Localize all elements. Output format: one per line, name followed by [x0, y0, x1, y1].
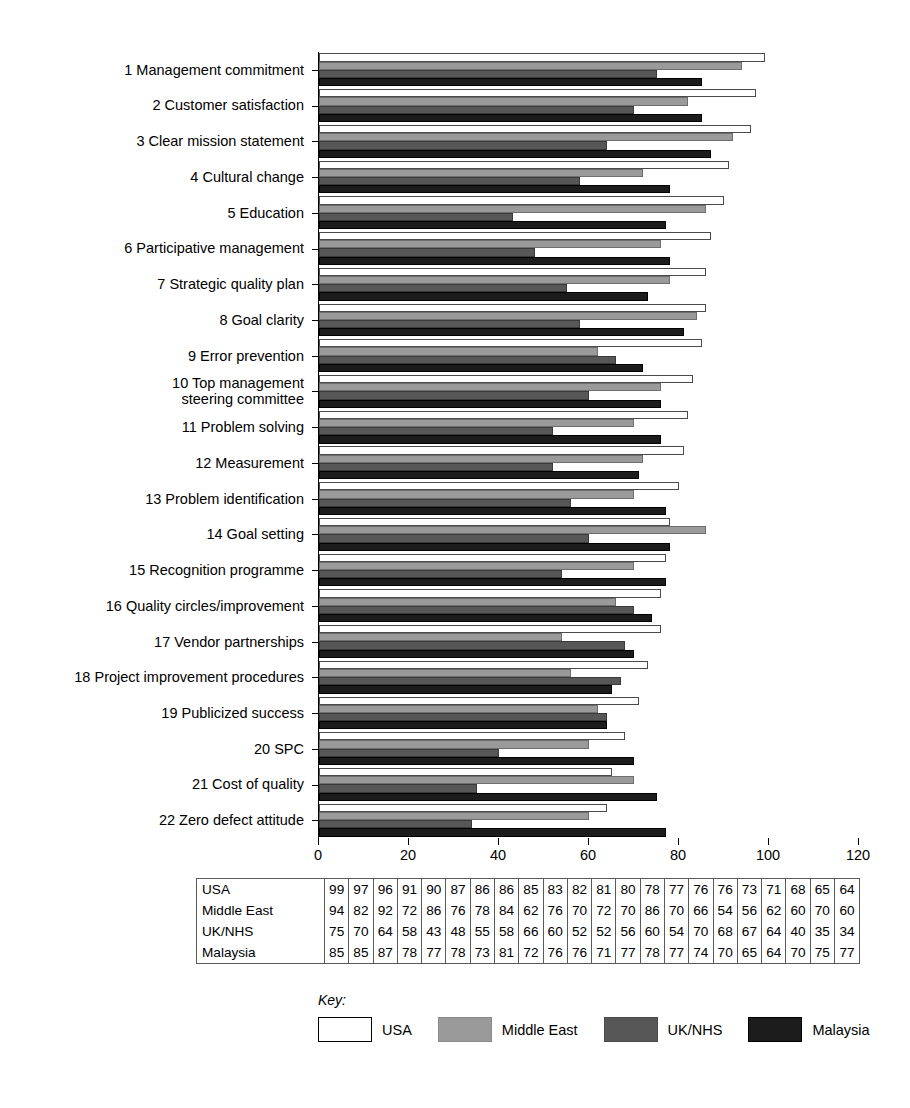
table-cell: 78	[640, 879, 664, 900]
x-axis-tick-label: 100	[756, 847, 780, 863]
bar-usa	[319, 268, 706, 276]
table-cell: 81	[494, 942, 518, 963]
table-cell: 66	[519, 921, 543, 942]
category-label: 1 Management commitment	[0, 52, 312, 88]
category-label: 9 Error prevention	[0, 338, 312, 374]
bar-group	[319, 409, 859, 445]
bar-usa	[319, 161, 729, 169]
table-cell: 75	[810, 942, 834, 963]
bar-middleeast	[319, 240, 661, 248]
bar-usa	[319, 697, 639, 705]
category-label: 17 Vendor partnerships	[0, 624, 312, 660]
category-label: 16 Quality circles/improvement	[0, 588, 312, 624]
bar-uknhs	[319, 320, 580, 328]
bar-uknhs	[319, 820, 472, 828]
table-cell: 85	[349, 942, 373, 963]
table-cell: 78	[397, 942, 421, 963]
table-cell: 76	[446, 900, 470, 921]
table-cell: 58	[397, 921, 421, 942]
x-axis-tick-label: 40	[490, 847, 506, 863]
bar-usa	[319, 518, 670, 526]
table-cell: 76	[567, 942, 591, 963]
bar-uknhs	[319, 284, 567, 292]
x-axis-tick	[588, 838, 589, 845]
bar-group	[319, 123, 859, 159]
bar-malaysia	[319, 435, 661, 443]
table-row-label: UK/NHS	[197, 921, 325, 942]
bar-malaysia	[319, 650, 634, 658]
table-cell: 71	[762, 879, 786, 900]
bar-group	[319, 767, 859, 803]
table-cell: 74	[689, 942, 713, 963]
table-cell: 85	[325, 942, 349, 963]
category-label: 21 Cost of quality	[0, 767, 312, 803]
bar-middleeast	[319, 419, 634, 427]
table-cell: 92	[373, 900, 397, 921]
bar-middleeast	[319, 633, 562, 641]
bar-uknhs	[319, 606, 634, 614]
table-cell: 48	[446, 921, 470, 942]
table-cell: 60	[640, 921, 664, 942]
legend-item: USA	[318, 1017, 412, 1042]
x-axis-tick	[768, 838, 769, 845]
table-cell: 58	[494, 921, 518, 942]
bar-uknhs	[319, 141, 607, 149]
legend-label: Middle East	[502, 1022, 578, 1038]
category-label: 8 Goal clarity	[0, 302, 312, 338]
table-cell: 62	[762, 900, 786, 921]
table-cell: 56	[616, 921, 640, 942]
category-label: 2 Customer satisfaction	[0, 88, 312, 124]
bar-usa	[319, 196, 724, 204]
bar-malaysia	[319, 257, 670, 265]
bar-middleeast	[319, 705, 598, 713]
bar-usa	[319, 411, 688, 419]
bar-usa	[319, 804, 607, 812]
table-cell: 60	[543, 921, 567, 942]
bar-group	[319, 802, 859, 838]
bar-malaysia	[319, 114, 702, 122]
bar-uknhs	[319, 213, 513, 221]
category-label: 5 Education	[0, 195, 312, 231]
bar-usa	[319, 732, 625, 740]
table-cell: 54	[713, 900, 737, 921]
bar-malaysia	[319, 221, 666, 229]
bar-group	[319, 588, 859, 624]
bar-usa	[319, 768, 612, 776]
table-row: USA9997969190878686858382818078777676737…	[197, 879, 859, 900]
bar-malaysia	[319, 328, 684, 336]
table-cell: 76	[543, 942, 567, 963]
bar-usa	[319, 375, 693, 383]
table-cell: 77	[834, 942, 859, 963]
bar-group	[319, 516, 859, 552]
x-axis-tick	[408, 838, 409, 845]
bar-middleeast	[319, 455, 643, 463]
table-cell: 75	[325, 921, 349, 942]
bar-uknhs	[319, 534, 589, 542]
table-cell: 78	[470, 900, 494, 921]
bar-uknhs	[319, 641, 625, 649]
bar-middleeast	[319, 562, 634, 570]
category-label: 6 Participative management	[0, 231, 312, 267]
bar-group	[319, 445, 859, 481]
table-cell: 56	[737, 900, 761, 921]
table-cell: 82	[349, 900, 373, 921]
table-cell: 40	[786, 921, 810, 942]
bar-malaysia	[319, 292, 648, 300]
category-axis-labels: 1 Management commitment2 Customer satisf…	[0, 52, 312, 838]
category-label: 10 Top management steering committee	[0, 374, 312, 410]
x-axis-tick-label: 120	[846, 847, 870, 863]
table-cell: 43	[422, 921, 446, 942]
category-label: 14 Goal setting	[0, 517, 312, 553]
category-label: 7 Strategic quality plan	[0, 266, 312, 302]
table-cell: 52	[567, 921, 591, 942]
bar-usa	[319, 589, 661, 597]
table-cell: 77	[664, 879, 688, 900]
bar-uknhs	[319, 427, 553, 435]
table-cell: 77	[422, 942, 446, 963]
table-cell: 65	[810, 879, 834, 900]
table-cell: 82	[567, 879, 591, 900]
bar-middleeast	[319, 598, 616, 606]
table-cell: 68	[713, 921, 737, 942]
table-cell: 87	[446, 879, 470, 900]
bar-group	[319, 52, 859, 88]
